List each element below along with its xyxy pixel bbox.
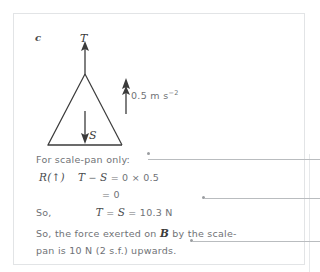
conclusion-line-2: pan is 10 N (2 s.f.) upwards.	[36, 245, 177, 256]
callout-line-conclusion	[192, 241, 320, 242]
eq1-right-hand-side: = 0 × 0.5	[107, 172, 159, 183]
eq1-minus: −	[85, 172, 100, 183]
working-intro: For scale-pan only:	[36, 154, 130, 165]
reaction-direction-prefix: R(↑)	[39, 171, 65, 183]
callout-line-equation	[148, 159, 320, 160]
scale-pan-free-body-diagram: T S 0.5 m s−2	[14, 14, 214, 154]
acceleration-exponent: −2	[168, 89, 178, 97]
eq3-equals: =	[103, 207, 118, 218]
conclusion-text-post: by the scale-	[169, 228, 237, 239]
callout-dot-equation	[147, 152, 150, 155]
acceleration-unit: m s	[147, 90, 168, 101]
working-equation-1: R(↑)T − S = 0 × 0.5	[39, 171, 159, 183]
eq3-prefix: So,	[36, 207, 52, 218]
conclusion-symbol-B: B	[160, 227, 169, 239]
diagram-svg	[14, 14, 214, 154]
callout-line-tension-result	[204, 198, 320, 199]
conclusion-line-1: So, the force exerted on B by the scale-	[36, 227, 237, 239]
acceleration-value: 0.5	[131, 90, 147, 101]
tension-label: T	[80, 32, 87, 45]
working-equation-2: = 0	[102, 189, 120, 200]
working-equation-3: So,T = S = 10.3 N	[36, 206, 173, 218]
eq3-result: = 10.3 N	[125, 207, 173, 218]
right-margin-rule	[309, 154, 310, 272]
eq3-symbol-S: S	[118, 206, 125, 218]
eq3-symbol-T: T	[96, 206, 103, 218]
weight-label: S	[89, 129, 97, 142]
solution-card: c T S 0.5 m s−2 For scale-pan only: R(↑)…	[13, 13, 305, 265]
conclusion-text-pre: So, the force exerted on	[36, 228, 160, 239]
acceleration-label: 0.5 m s−2	[131, 90, 179, 101]
